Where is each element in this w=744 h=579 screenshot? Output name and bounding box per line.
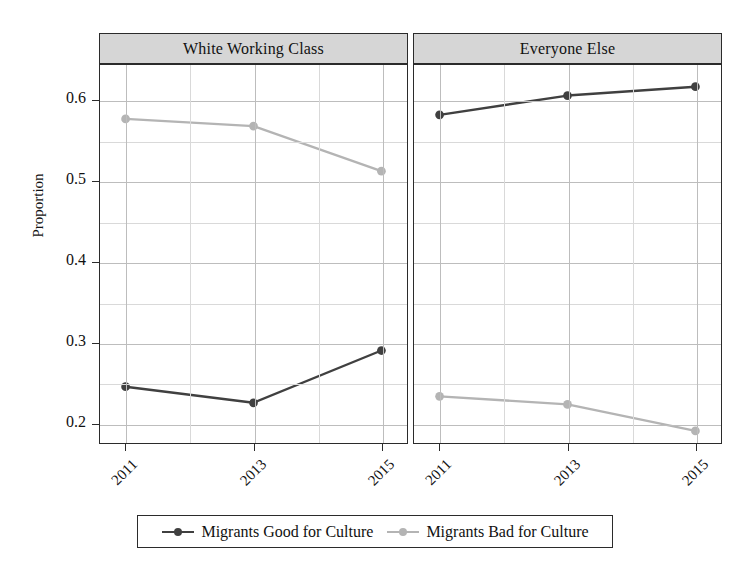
- x-tick-mark: [568, 444, 569, 451]
- gridline-horizontal: [414, 425, 721, 426]
- y-tick-mark: [92, 262, 99, 263]
- gridline-horizontal: [414, 263, 721, 264]
- series-layer-left: [100, 65, 407, 443]
- gridline-horizontal: [414, 344, 721, 345]
- x-tick-mark: [439, 444, 440, 451]
- gridline-horizontal: [414, 182, 721, 183]
- gridline-vertical: [126, 65, 127, 443]
- panel-right-title: Everyone Else: [413, 33, 722, 64]
- panel-everyone-else: Everyone Else: [413, 33, 722, 444]
- data-point: [249, 122, 258, 131]
- legend-marker-good-icon: [161, 526, 195, 538]
- gridline-horizontal: [100, 101, 407, 102]
- series-line: [126, 351, 382, 403]
- gridline-vertical: [190, 65, 191, 443]
- y-tick-label: 0.3: [40, 332, 86, 350]
- legend-item-good: Migrants Good for Culture: [161, 523, 373, 541]
- gridline-horizontal: [100, 223, 407, 224]
- gridline-horizontal: [100, 304, 407, 305]
- panel-left-title: White Working Class: [99, 33, 408, 64]
- chart-legend: Migrants Good for Culture Migrants Bad f…: [137, 515, 613, 548]
- legend-label-bad: Migrants Bad for Culture: [426, 523, 588, 541]
- gridline-horizontal: [414, 304, 721, 305]
- legend-marker-bad-icon: [386, 526, 420, 538]
- y-tick-mark: [92, 424, 99, 425]
- gridline-vertical: [255, 65, 256, 443]
- data-point: [563, 400, 572, 409]
- plot-area-right: [413, 64, 722, 444]
- y-tick-label: 0.4: [40, 251, 86, 269]
- x-tick-label: 2011: [406, 456, 455, 505]
- x-tick-mark: [254, 444, 255, 451]
- legend-item-bad: Migrants Bad for Culture: [386, 523, 588, 541]
- legend-label-good: Migrants Good for Culture: [201, 523, 373, 541]
- y-tick-mark: [92, 343, 99, 344]
- x-tick-label: 2011: [92, 456, 141, 505]
- gridline-horizontal: [100, 344, 407, 345]
- chart-figure: Proportion 0.60.50.40.30.2 White Working…: [0, 0, 744, 579]
- x-tick-mark: [125, 444, 126, 451]
- gridline-horizontal: [100, 182, 407, 183]
- y-tick-label: 0.2: [40, 413, 86, 431]
- plot-area-left: [99, 64, 408, 444]
- data-point: [377, 346, 386, 355]
- data-point: [563, 91, 572, 100]
- data-point: [691, 427, 700, 436]
- gridline-vertical: [383, 65, 384, 443]
- y-tick-label: 0.6: [40, 89, 86, 107]
- x-tick-mark: [382, 444, 383, 451]
- gridline-horizontal: [414, 384, 721, 385]
- gridline-vertical: [569, 65, 570, 443]
- panel-white-working-class: White Working Class: [99, 33, 408, 444]
- x-tick-label: 2015: [663, 456, 712, 505]
- x-tick-label: 2013: [221, 456, 270, 505]
- x-tick-label: 2013: [535, 456, 584, 505]
- gridline-vertical: [319, 65, 320, 443]
- gridline-horizontal: [414, 223, 721, 224]
- gridline-horizontal: [100, 142, 407, 143]
- x-tick-mark: [696, 444, 697, 451]
- y-tick-mark: [92, 100, 99, 101]
- y-tick-label: 0.5: [40, 170, 86, 188]
- data-point: [249, 398, 258, 407]
- data-point: [691, 82, 700, 91]
- gridline-horizontal: [100, 384, 407, 385]
- gridline-horizontal: [100, 425, 407, 426]
- y-tick-mark: [92, 181, 99, 182]
- x-tick-label: 2015: [349, 456, 398, 505]
- gridline-horizontal: [414, 142, 721, 143]
- gridline-horizontal: [414, 101, 721, 102]
- gridline-vertical: [633, 65, 634, 443]
- gridline-horizontal: [100, 263, 407, 264]
- gridline-vertical: [440, 65, 441, 443]
- series-layer-right: [414, 65, 721, 443]
- gridline-vertical: [504, 65, 505, 443]
- gridline-vertical: [697, 65, 698, 443]
- data-point: [377, 167, 386, 176]
